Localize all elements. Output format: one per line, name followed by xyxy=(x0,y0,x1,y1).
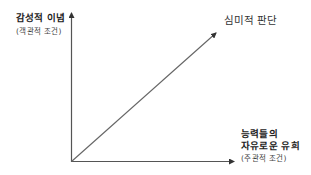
x-axis-label-line2: 자유로운 유희 xyxy=(241,141,300,151)
y-axis-label: 감성적 이념 xyxy=(16,13,66,23)
diagonal-label: 심미적 판단 xyxy=(224,15,277,26)
diagonal-arrow xyxy=(72,33,217,162)
x-axis-sublabel: (주관적 조건) xyxy=(241,155,287,163)
y-axis-sublabel: (객관적 조건) xyxy=(16,28,62,36)
x-axis-label-line1: 능력들의 xyxy=(241,129,278,139)
